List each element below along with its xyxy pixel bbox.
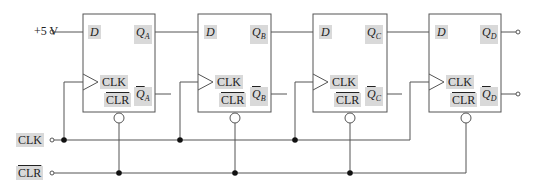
ff-a-clr-label: CLR [104, 93, 131, 107]
ff-a-clk-label: CLK [100, 75, 128, 89]
ff-b-clr-label: CLR [219, 93, 246, 107]
ff-c-clr-label: CLR [334, 93, 361, 107]
ff-a-d-label: D [88, 25, 101, 39]
ff-b-d-label: D [204, 25, 217, 39]
ff-a-q-label: QA [134, 25, 152, 44]
ff-b-q-label: QB [250, 25, 268, 44]
ff-b-qbar-label: QB [250, 87, 268, 106]
ff-d-d-label: D [435, 25, 448, 39]
clr-input-label: CLR [16, 166, 43, 180]
ff-d-clr-label: CLR [450, 93, 477, 107]
ff-c-d-label: D [319, 25, 332, 39]
ff-b-clk-label: CLK [215, 75, 243, 89]
ff-c-clk-label: CLK [330, 75, 358, 89]
ff-a-qbar-label: QA [134, 87, 152, 106]
clk-input-label: CLK [16, 133, 44, 147]
ff-d-q-label: QD [480, 25, 498, 44]
ff-c-qbar-label: QC [365, 87, 383, 106]
ff-c-q-label: QC [365, 25, 383, 44]
ff-d-qbar-label: QD [480, 87, 498, 106]
input-voltage-label: +5 V [34, 24, 58, 39]
ff-d-clk-label: CLK [446, 75, 474, 89]
